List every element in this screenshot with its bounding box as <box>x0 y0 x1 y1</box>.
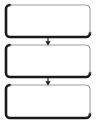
node-fill <box>6 85 90 118</box>
node-fill <box>6 5 90 37</box>
node-fill <box>6 45 90 77</box>
flowchart-node[interactable] <box>6 45 90 77</box>
nodes-layer <box>6 5 90 118</box>
flowchart-node[interactable] <box>6 5 90 37</box>
flowchart-diagram <box>0 0 99 126</box>
diagram-canvas <box>0 0 99 126</box>
flowchart-node[interactable] <box>6 85 90 118</box>
